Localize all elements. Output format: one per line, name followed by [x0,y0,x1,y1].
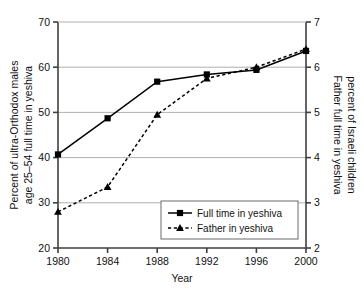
left-axis-title-line1: Percent of ultra-Orthodox males [8,61,20,210]
x-tick-label: 1988 [146,255,170,267]
x-axis-title: Year [171,272,193,284]
x-tick-label: 1996 [245,255,269,267]
right-tick-label: 7 [314,16,320,28]
left-tick-label: 50 [38,106,50,118]
left-axis-title-line2: age 25–54 full time in yeshiva [22,66,34,204]
chart-figure: 203040506070 234567 19801984198819921996… [0,0,364,296]
right-tick-label: 2 [314,242,320,254]
right-axis-title-line1: Father full time in yeshiva [332,75,344,194]
chart-canvas: 203040506070 234567 19801984198819921996… [0,0,364,296]
left-tick-label: 70 [38,16,50,28]
x-tick-label: 1980 [46,255,70,267]
right-tick-label: 5 [314,106,320,118]
data-point-marker [154,79,160,85]
legend-marker-square [177,210,183,216]
chart-background [0,0,364,296]
chart-legend: Full time in yeshivaFather in yeshiva [161,201,298,239]
right-tick-label: 4 [314,151,320,163]
legend-label: Father in yeshiva [197,223,274,234]
data-point-marker [105,115,111,121]
right-tick-label: 3 [314,196,320,208]
left-tick-label: 20 [38,242,50,254]
right-tick-label: 6 [314,61,320,73]
left-tick-label: 40 [38,151,50,163]
x-tick-label: 2000 [294,255,318,267]
x-tick-label: 1984 [96,255,120,267]
data-point-marker [55,151,61,157]
legend-label: Full time in yeshiva [197,208,282,219]
x-tick-label: 1992 [195,255,219,267]
left-tick-label: 60 [38,61,50,73]
left-tick-label: 30 [38,196,50,208]
right-axis-title-line2: percent of Israeli children [346,76,358,193]
